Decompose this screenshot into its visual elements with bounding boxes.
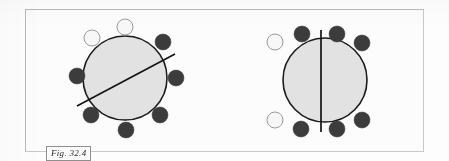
diagram-left [40, 10, 210, 153]
node-dark-6 [293, 121, 309, 137]
figure-frame: Fig. 32.4 [25, 9, 424, 152]
node-dark-8 [118, 122, 134, 138]
node-dark-6 [83, 107, 99, 123]
node-light-2 [84, 30, 100, 46]
figure-caption: Fig. 32.4 [46, 146, 91, 161]
node-dark-1 [294, 26, 310, 42]
main-circle [83, 36, 167, 120]
node-dark-3 [354, 35, 370, 51]
diagram-right [240, 10, 410, 153]
node-dark-7 [152, 107, 168, 123]
main-circle [283, 38, 367, 122]
node-dark-4 [69, 68, 85, 84]
node-dark-2 [329, 26, 345, 42]
node-light-4 [267, 34, 283, 50]
node-dark-7 [329, 121, 345, 137]
diagram-left-canvas [40, 10, 210, 153]
node-dark-3 [155, 34, 171, 50]
node-dark-5 [168, 70, 184, 86]
node-light-5 [267, 112, 283, 128]
node-light-1 [117, 19, 133, 35]
node-dark-8 [354, 112, 370, 128]
diagram-right-canvas [240, 10, 410, 153]
scanned-page: Fig. 32.4 [0, 0, 449, 161]
